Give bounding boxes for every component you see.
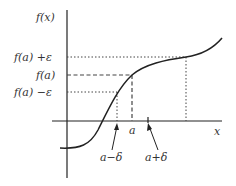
function-curve: [60, 38, 222, 148]
x-axis-label: x: [214, 125, 221, 138]
a-plus-delta-label: a+δ: [145, 151, 168, 164]
y-axis-label: f(x): [35, 11, 55, 24]
a-minus-delta-label: a−δ: [100, 151, 123, 164]
arrowhead-a-plus-delta: [147, 123, 152, 131]
fa-label: f(a): [35, 69, 55, 82]
lower-epsilon-label: f(a) −ε: [13, 86, 52, 99]
arrowhead-a-minus-delta: [114, 123, 119, 130]
a-label: a: [129, 124, 136, 137]
upper-epsilon-label: f(a) +ε: [13, 51, 52, 64]
continuity-diagram: f(x) f(a) +ε f(a) f(a) −ε x a a−δ a+δ: [0, 0, 236, 186]
